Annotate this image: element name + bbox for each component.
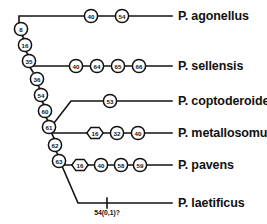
node-label: 61 [46,124,53,131]
node-label: 63 [56,158,63,165]
cladogram-canvas: 8163536546061626340544064656653163240164… [0,0,267,224]
node-label: 66 [136,63,143,70]
node-label: 64 [94,63,101,70]
node-label: 59 [137,162,144,169]
node-label: 40 [88,13,95,20]
character-node-65[interactable]: 65 [111,59,124,72]
node-label: 54 [38,92,45,99]
character-node-40[interactable]: 40 [131,126,144,139]
character-node-16[interactable]: 16 [18,38,31,51]
node-label: 58 [118,162,125,169]
character-node-40[interactable]: 40 [69,59,82,72]
node-label: 62 [52,142,59,149]
annotation-laetificus-tick: 54(0,1)? [94,209,120,216]
character-node-40[interactable]: 40 [84,9,97,22]
taxon-label-metallosomus: P. metallosomus [178,126,267,140]
node-label: 16 [77,162,84,169]
character-node-54[interactable]: 54 [115,9,128,22]
character-node-54[interactable]: 54 [34,88,47,101]
character-node-60[interactable]: 60 [38,104,51,117]
node-label: 54 [119,13,126,20]
character-node-59[interactable]: 59 [133,158,146,171]
node-label: 40 [73,63,80,70]
character-node-16[interactable]: 16 [87,127,103,138]
cladogram-figure: 8163536546061626340544064656653163240164… [0,0,267,224]
branch-laetificus [62,166,172,203]
character-node-63[interactable]: 63 [52,154,65,167]
taxon-label-sellensis: P. sellensis [178,59,243,73]
node-label: 65 [115,63,122,70]
character-node-40[interactable]: 40 [94,158,107,171]
character-node-62[interactable]: 62 [48,138,61,151]
character-node-61[interactable]: 61 [42,120,55,133]
node-label: 53 [107,98,114,105]
character-node-64[interactable]: 64 [90,59,103,72]
node-label: 32 [114,130,121,137]
node-label: 16 [22,42,29,49]
taxon-label-pavens: P. pavens [178,158,234,172]
character-node-32[interactable]: 32 [110,126,123,139]
character-node-layer: 8163536546061626340544064656653163240164… [14,9,146,171]
character-node-16[interactable]: 16 [72,159,88,170]
node-label: 60 [42,108,49,115]
node-label: 16 [92,130,99,137]
node-label: 35 [26,58,33,65]
character-node-53[interactable]: 53 [103,94,116,107]
taxon-label-coptoderoides: P. coptoderoides [178,94,267,108]
character-node-35[interactable]: 35 [22,54,35,67]
character-node-66[interactable]: 66 [132,59,145,72]
character-node-58[interactable]: 58 [114,158,127,171]
node-label: 36 [34,76,41,83]
node-label: 40 [135,130,142,137]
character-node-36[interactable]: 36 [30,72,43,85]
character-node-8[interactable]: 8 [14,22,27,35]
node-label: 8 [19,26,23,33]
node-label: 40 [98,162,105,169]
taxon-label-agonellus: P. agonellus [178,9,249,23]
taxon-label-laetificus: P. laetificus [178,196,245,210]
